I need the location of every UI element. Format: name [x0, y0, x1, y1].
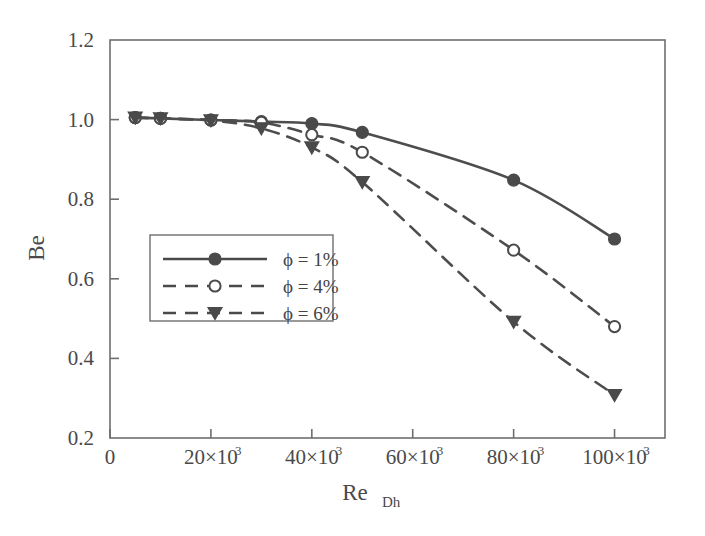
- y-axis-tick-labels: 0.20.40.60.81.01.2: [68, 28, 95, 450]
- x-tick-label-mantissa: 40×10: [285, 445, 339, 469]
- x-tick-label-exponent: 3: [538, 443, 545, 458]
- x-tick-label-mantissa: 0: [105, 445, 116, 469]
- y-tick-label: 0.4: [68, 346, 95, 370]
- legend-label: ϕ = 1%: [283, 249, 339, 270]
- data-series: [129, 112, 620, 245]
- x-tick-label-mantissa: 20×10: [184, 445, 238, 469]
- data-marker-open-circle: [306, 129, 317, 140]
- x-tick-label: 80×103: [487, 443, 544, 469]
- data-marker-open-circle: [609, 321, 620, 332]
- x-tick-label-exponent: 3: [643, 443, 650, 458]
- x-tick-label-exponent: 3: [336, 443, 343, 458]
- y-axis-ticks: [110, 120, 119, 359]
- y-tick-label: 0.8: [68, 187, 94, 211]
- x-tick-label-mantissa: 80×10: [487, 445, 541, 469]
- legend: ϕ = 1%ϕ = 4%ϕ = 6%: [150, 235, 339, 324]
- x-tick-label-exponent: 3: [437, 443, 444, 458]
- data-marker-triangle-down: [507, 316, 521, 328]
- y-tick-label: 1.2: [68, 28, 94, 52]
- x-tick-label: 0: [105, 445, 116, 469]
- legend-label: ϕ = 4%: [283, 276, 339, 297]
- data-marker-triangle-down: [608, 390, 622, 402]
- x-tick-label-exponent: 3: [235, 443, 242, 458]
- chart-canvas: 020×10340×10360×10380×103100×103 0.20.40…: [0, 0, 705, 536]
- data-marker-open-circle: [357, 147, 368, 158]
- x-axis-title-base: Re: [342, 480, 368, 505]
- x-axis-title: Re Dh: [342, 480, 401, 510]
- x-tick-label: 20×103: [184, 443, 241, 469]
- y-axis-title-text: Be: [24, 235, 49, 261]
- series-line: [135, 118, 614, 239]
- y-axis-title: Be: [24, 235, 49, 261]
- data-marker-filled-circle: [609, 233, 621, 245]
- data-marker-filled-circle: [508, 174, 520, 186]
- data-marker-filled-circle: [356, 126, 368, 138]
- data-marker-open-circle: [508, 245, 519, 256]
- data-marker-filled-circle: [306, 118, 318, 130]
- x-tick-label: 60×103: [386, 443, 443, 469]
- x-axis-ticks: [110, 429, 615, 438]
- x-tick-label: 100×103: [582, 443, 649, 469]
- y-tick-label: 0.2: [68, 426, 94, 450]
- x-axis-tick-labels: 020×10340×10360×10380×103100×103: [105, 443, 650, 469]
- y-tick-label: 0.6: [68, 267, 94, 291]
- x-tick-label: 40×103: [285, 443, 342, 469]
- x-tick-label-mantissa: 100×10: [582, 445, 646, 469]
- data-marker-filled-circle: [209, 253, 221, 265]
- data-marker-triangle-down: [305, 142, 319, 154]
- data-marker-open-circle: [209, 280, 220, 291]
- x-tick-label-mantissa: 60×10: [386, 445, 440, 469]
- x-axis-title-subscript: Dh: [382, 494, 401, 510]
- legend-label: ϕ = 6%: [283, 303, 339, 324]
- chart-figure: 020×10340×10360×10380×103100×103 0.20.40…: [0, 0, 705, 536]
- y-tick-label: 1.0: [68, 108, 94, 132]
